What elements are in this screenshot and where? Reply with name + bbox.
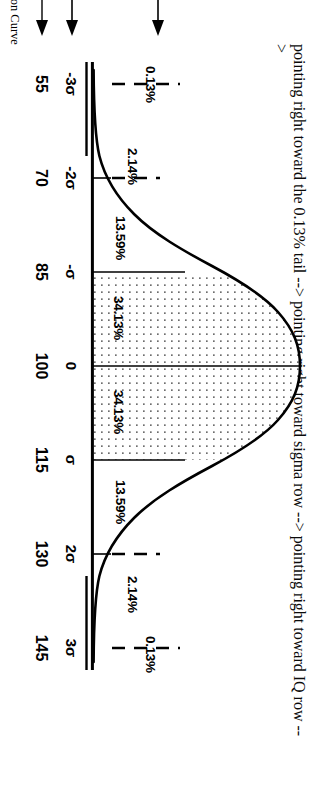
pct-label-neg1-zero: 34.13% (111, 296, 126, 340)
figure-caption-title: Normal Distribution Curve (8, 0, 22, 44)
pct-label-tail-left: 0.13% (143, 66, 158, 103)
pct-label-zero-pos1: 34.13% (111, 390, 126, 434)
iq-tick-145: 145 (32, 634, 50, 661)
sigma-tick-neg1: -σ (63, 264, 80, 279)
iq-tick-55: 55 (32, 75, 50, 93)
arrow-up-icon-sigma (64, 0, 80, 38)
iq-tick-85: 85 (32, 263, 50, 281)
iq-tick-100: 100 (32, 352, 50, 379)
plot-area: 0.13% 2.14% 13.59% 34.13% 34.13% 13.59% … (8, 44, 308, 744)
sigma-tick-neg3: -3σ (63, 72, 80, 96)
iq-tick-70: 70 (32, 169, 50, 187)
iq-axis-ticks: 55 70 85 100 115 130 145 (24, 44, 50, 744)
pct-label-pos1-pos2: 13.59% (113, 480, 128, 524)
pct-label-neg2-neg1: 13.59% (113, 216, 128, 260)
arrow-up-icon-iq (34, 0, 50, 38)
arrow-up-icon-percent (150, 0, 166, 38)
sigma-axis-ticks: -3σ -2σ -σ 0 σ 2σ 3σ (54, 44, 80, 744)
pct-label-pos2-pos3: 2.14% (125, 576, 140, 613)
figure-caption: Figure 3.1.Normal Distribution Curve (7, 0, 22, 44)
sigma-tick-neg2: -2σ (63, 166, 80, 190)
sigma-tick-pos1: σ (63, 454, 80, 464)
iq-tick-130: 130 (32, 540, 50, 567)
pct-label-tail-right: 0.13% (143, 636, 158, 673)
sigma-tick-pos3: 3σ (63, 638, 80, 657)
chart-stage: 0.13% 2.14% 13.59% 34.13% 34.13% 13.59% … (8, 44, 308, 744)
sigma-tick-pos2: 2σ (63, 544, 80, 563)
normal-distribution-figure: 0.13% 2.14% 13.59% 34.13% 34.13% 13.59% … (0, 0, 315, 787)
pct-label-neg3-neg2: 2.14% (125, 148, 140, 185)
iq-tick-115: 115 (32, 447, 50, 473)
sigma-tick-zero: 0 (63, 361, 80, 369)
